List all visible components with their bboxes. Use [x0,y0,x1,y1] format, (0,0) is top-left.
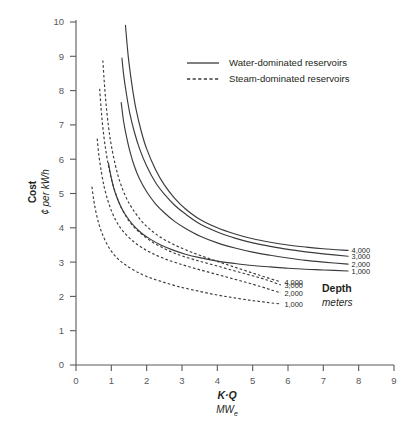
x-axis-sub-script: e [234,410,238,417]
end-label-solid-1000: 1,000 [352,267,371,276]
y-axis-title: Cost ¢ per kWh [27,169,51,215]
depth-title: Depth [322,282,352,294]
x-tick-label-0: 0 [73,375,78,386]
legend-label-steam: Steam-dominated reservoirs [229,73,350,84]
y-tick-label-10: 10 [53,16,64,27]
curve-solid-3000 [122,58,348,256]
y-tick-label-0: 0 [59,359,64,370]
y-axis-title-main: Cost [27,180,38,203]
x-axis-title-main: K·Q [217,389,236,401]
x-tick-label-1: 1 [109,375,114,386]
curve-dashed-4000 [103,60,281,282]
x-tick-label-4: 4 [215,375,220,386]
x-axis-title: K·Q MWe [216,389,238,417]
curve-solid-1000 [109,163,349,271]
x-tick-label-2: 2 [144,375,149,386]
y-axis-ticks: 012345678910 [53,16,76,370]
x-tick-label-5: 5 [250,375,255,386]
legend-label-water: Water-dominated reservoirs [229,57,347,68]
x-axis-ticks: 0123456789 [73,365,396,386]
y-tick-label-5: 5 [59,188,64,199]
x-axis-title-sub: MWe [216,404,238,417]
x-tick-label-8: 8 [356,375,361,386]
x-tick-label-7: 7 [321,375,326,386]
curve-solid-2000 [121,103,348,265]
end-label-dashed-1000: 1,000 [284,300,303,309]
y-tick-label-6: 6 [59,154,64,165]
x-tick-label-6: 6 [285,375,290,386]
y-tick-label-1: 1 [59,325,64,336]
x-tick-label-3: 3 [179,375,184,386]
x-axis-sub-unit: MW [216,404,235,415]
depth-annotation: Depth meters [322,282,353,308]
y-tick-label-4: 4 [59,222,64,233]
y-tick-label-8: 8 [59,85,64,96]
curve-dashed-2000 [97,139,281,293]
x-tick-label-9: 9 [391,375,396,386]
chart-figure: 012345678910 0123456789 4,0003,0002,0001… [0,0,417,428]
y-axis-title-sub: ¢ per kWh [40,169,51,215]
end-label-dashed-2000: 2,000 [284,289,303,298]
y-tick-label-9: 9 [59,51,64,62]
depth-units: meters [322,297,353,308]
cost-vs-kq-chart: 012345678910 0123456789 4,0003,0002,0001… [0,0,417,428]
y-tick-label-2: 2 [59,291,64,302]
y-tick-label-3: 3 [59,257,64,268]
legend: Water-dominated reservoirs Steam-dominat… [187,57,350,84]
y-tick-label-7: 7 [59,119,64,130]
